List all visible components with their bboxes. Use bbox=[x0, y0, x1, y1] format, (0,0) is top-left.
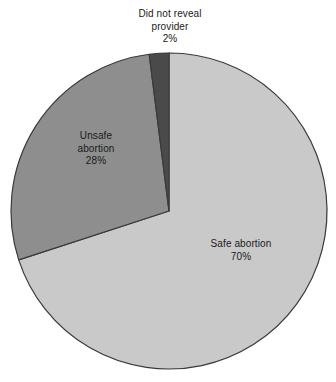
pie-chart-canvas bbox=[0, 0, 336, 382]
pie-label-unsafe-abortion: Unsafe abortion 28% bbox=[48, 130, 144, 168]
pie-label-did-not-reveal-provider: Did not reveal provider 2% bbox=[105, 8, 235, 46]
pie-label-safe-abortion: Safe abortion 70% bbox=[181, 238, 301, 263]
pie-label-unsafe-line2: abortion bbox=[48, 143, 144, 156]
pie-label-safe-value: 70% bbox=[181, 251, 301, 264]
pie-chart: Did not reveal provider 2% Unsafe aborti… bbox=[0, 0, 336, 382]
pie-label-did-not-reveal-line1: Did not reveal bbox=[105, 8, 235, 21]
pie-label-unsafe-value: 28% bbox=[48, 155, 144, 168]
pie-label-did-not-reveal-line2: provider bbox=[105, 21, 235, 34]
pie-label-unsafe-line1: Unsafe bbox=[48, 130, 144, 143]
pie-label-safe-line1: Safe abortion bbox=[181, 238, 301, 251]
pie-label-did-not-reveal-value: 2% bbox=[105, 33, 235, 46]
